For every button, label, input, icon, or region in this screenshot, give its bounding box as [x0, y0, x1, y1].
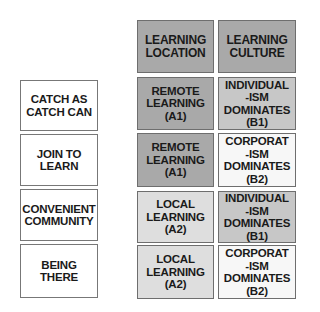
scenario-label-convenient-community: CONVENIENT COMMUNITY	[20, 189, 98, 241]
scenario-label-join-to-learn: JOIN TO LEARN	[20, 134, 98, 186]
location-cell-local-learning: LOCAL LEARNING (A2)	[137, 245, 214, 299]
culture-cell-individualism: INDIVIDUAL -ISM DOMINATES (B1)	[218, 191, 296, 243]
scenario-label-being-there: BEING THERE	[20, 244, 98, 298]
scenario-label-catch-as-catch-can: CATCH AS CATCH CAN	[20, 80, 98, 131]
culture-cell-individualism: INDIVIDUAL -ISM DOMINATES (B1)	[218, 77, 296, 130]
header-learning-location-label: LEARNING LOCATION	[145, 34, 206, 60]
location-cell-remote-learning: REMOTE LEARNING (A1)	[137, 77, 214, 130]
location-cell-local-learning: LOCAL LEARNING (A2)	[137, 191, 214, 243]
culture-cell-corporatism: CORPORAT -ISM DOMINATES (B2)	[218, 245, 296, 299]
header-learning-culture-label: LEARNING CULTURE	[226, 34, 287, 60]
location-cell-remote-learning: REMOTE LEARNING (A1)	[137, 133, 214, 187]
header-learning-culture: LEARNING CULTURE	[218, 20, 296, 73]
culture-cell-corporatism: CORPORAT -ISM DOMINATES (B2)	[218, 133, 296, 187]
header-learning-location: LEARNING LOCATION	[137, 20, 214, 73]
